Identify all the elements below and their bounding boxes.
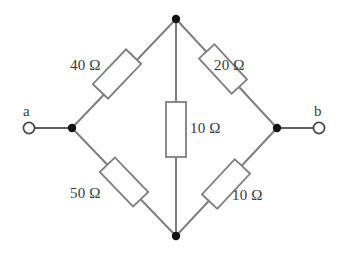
resistor-10-ohm-center <box>166 102 186 157</box>
terminal-circle-b <box>313 122 324 133</box>
node-dot-left <box>68 124 76 132</box>
circuit-diagram: a b 40 Ω 20 Ω 10 Ω 50 Ω 10 Ω <box>0 0 348 256</box>
node-dot-top <box>172 15 180 23</box>
resistor-label-10-ohm-center: 10 Ω <box>190 121 221 136</box>
terminal-label-b: b <box>314 104 322 119</box>
terminal-circle-a <box>23 122 34 133</box>
resistor-label-40-ohm: 40 Ω <box>70 58 101 73</box>
resistor-50-ohm-body <box>100 157 148 206</box>
resistor-label-10-ohm-bottom-right: 10 Ω <box>232 188 263 203</box>
resistor-label-20-ohm: 20 Ω <box>214 58 245 73</box>
resistor-50-ohm <box>100 157 148 206</box>
node-dot-bottom <box>172 232 180 240</box>
circuit-schematic-canvas <box>0 0 348 256</box>
resistor-label-50-ohm: 50 Ω <box>70 186 101 201</box>
resistor-10-ohm-center-body <box>166 102 186 157</box>
terminal-label-a: a <box>23 104 30 119</box>
node-dot-right <box>273 124 281 132</box>
